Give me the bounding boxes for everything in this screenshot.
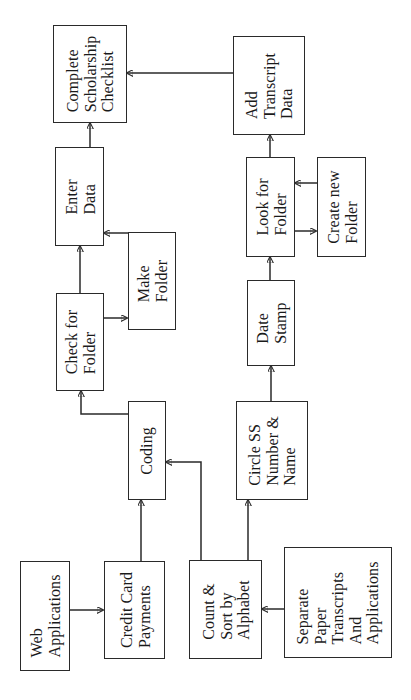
node-label: Complete Scholarship Checklist: [64, 36, 117, 113]
node-make-folder: Make Folder: [128, 232, 176, 330]
node-label: Look for Folder: [253, 178, 288, 235]
node-look-for-folder: Look for Folder: [246, 157, 295, 257]
node-label: Add Transcript Data: [243, 52, 296, 118]
node-circle-ss-number-name: Circle SS Number & Name: [236, 401, 308, 500]
node-complete-scholarship-checklist: Complete Scholarship Checklist: [53, 25, 127, 123]
node-credit-card-payments: Credit Card Payments: [104, 561, 165, 659]
node-check-for-folder: Check for Folder: [56, 293, 104, 391]
node-label: Separate Paper Transcripts And Applicati…: [294, 561, 382, 644]
node-label: Count & Sort by Alphabet: [199, 580, 252, 639]
flowchart-canvas: Complete Scholarship Checklist Add Trans…: [0, 0, 411, 700]
node-enter-data: Enter Data: [55, 147, 104, 246]
edge-coding-to-check: [81, 391, 128, 414]
node-label: Circle SS Number & Name: [246, 416, 299, 486]
node-web-applications: Web Applications: [20, 561, 70, 671]
node-label: Create new Folder: [324, 170, 359, 243]
node-label: Credit Card Payments: [117, 572, 152, 648]
node-add-transcript-data: Add Transcript Data: [233, 36, 305, 135]
node-label: Web Applications: [28, 575, 63, 658]
node-count-sort-by-alphabet: Count & Sort by Alphabet: [189, 560, 262, 659]
node-label: Coding: [138, 427, 156, 475]
node-label: Check for Folder: [63, 310, 98, 374]
node-label: Date Stamp: [254, 302, 289, 343]
node-date-stamp: Date Stamp: [247, 280, 295, 366]
node-separate-paper-transcripts: Separate Paper Transcripts And Applicati…: [284, 547, 392, 658]
node-create-new-folder: Create new Folder: [317, 157, 366, 257]
node-coding: Coding: [128, 401, 166, 500]
node-label: Enter Data: [62, 179, 97, 214]
node-label: Make Folder: [135, 260, 170, 302]
edge-count-to-coding: [166, 462, 201, 560]
